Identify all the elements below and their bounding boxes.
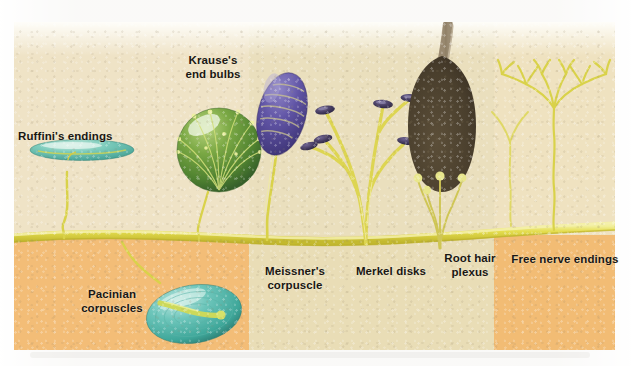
free-nerve-ending-receptor bbox=[492, 60, 610, 230]
label-merkel-disks: Merkel disks bbox=[345, 265, 437, 279]
root-hair-plexus-receptor bbox=[408, 22, 476, 248]
merkel-disk-plate bbox=[299, 93, 419, 152]
merkel-disk-receptor bbox=[299, 93, 419, 244]
label-free-nerve-endings: Free nerve endings bbox=[500, 253, 630, 267]
label-pacinian-corpuscles: Pacinian corpuscles bbox=[62, 288, 162, 315]
ruffini-ending-receptor bbox=[30, 140, 134, 239]
krause-end-bulb-receptor bbox=[176, 108, 262, 240]
label-meissner-corpuscle: Meissner's corpuscle bbox=[249, 265, 341, 292]
label-ruffini-endings: Ruffini's endings bbox=[18, 130, 138, 144]
main-nerve-trunk bbox=[14, 223, 615, 245]
label-krause-end-bulbs: Krause's end bulbs bbox=[158, 54, 268, 81]
